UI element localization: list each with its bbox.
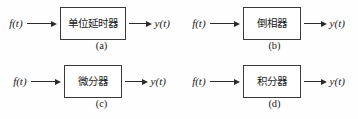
signal-flow-row-a: f(t) 单位延时器 y(t) [0, 6, 179, 41]
processing-block-b: 倒相器 [243, 7, 301, 40]
arrow-shaft [27, 23, 52, 24]
output-arrow-icon-b [304, 20, 327, 27]
caption-b: (b) [179, 41, 358, 52]
block-label-c: 微分器 [78, 76, 108, 87]
arrow-shaft [210, 23, 235, 24]
arrow-shaft [125, 81, 143, 82]
arrow-head [321, 79, 327, 85]
input-signal-label-d: f(t) [192, 76, 205, 87]
signal-flow-row-b: f(t) 倒相器 y(t) [179, 6, 358, 41]
input-arrow-icon-a [27, 20, 57, 27]
block-diagram-c: f(t) 微分器 y(t) (c) [0, 58, 179, 117]
output-arrow-icon-a [129, 20, 152, 27]
input-arrow-icon-c [31, 78, 61, 85]
processing-block-a: 单位延时器 [60, 7, 126, 40]
input-arrow-icon-d [210, 78, 240, 85]
caption-c: (c) [0, 99, 191, 110]
signal-flow-row-c: f(t) 微分器 y(t) [0, 64, 179, 99]
input-signal-label-a: f(t) [9, 18, 22, 29]
caption-a: (a) [0, 41, 191, 52]
input-signal-label-c: f(t) [13, 76, 26, 87]
output-signal-label-c: y(t) [151, 76, 166, 87]
signal-flow-row-d: f(t) 积分器 y(t) [179, 64, 358, 99]
block-label-d: 积分器 [257, 76, 287, 87]
input-arrow-icon-b [210, 20, 240, 27]
caption-d: (d) [179, 99, 358, 110]
input-signal-label-b: f(t) [192, 18, 205, 29]
arrow-head [321, 21, 327, 27]
block-diagram-b: f(t) 倒相器 y(t) (b) [179, 0, 358, 59]
block-diagram-a: f(t) 单位延时器 y(t) (a) [0, 0, 179, 59]
processing-block-c: 微分器 [64, 65, 122, 98]
block-diagram-figure: f(t) 单位延时器 y(t) (a) f(t) 倒相器 [0, 0, 358, 119]
arrow-head [146, 21, 152, 27]
arrow-shaft [304, 81, 322, 82]
output-signal-label-a: y(t) [155, 18, 170, 29]
arrow-shaft [31, 81, 56, 82]
arrow-shaft [210, 81, 235, 82]
arrow-head [51, 21, 57, 27]
output-arrow-icon-d [304, 78, 327, 85]
output-signal-label-d: y(t) [330, 76, 345, 87]
processing-block-d: 积分器 [243, 65, 301, 98]
block-label-a: 单位延时器 [68, 18, 118, 29]
arrow-shaft [304, 23, 322, 24]
arrow-shaft [129, 23, 147, 24]
output-signal-label-b: y(t) [330, 18, 345, 29]
arrow-head [234, 21, 240, 27]
block-diagram-d: f(t) 积分器 y(t) (d) [179, 58, 358, 117]
arrow-head [234, 79, 240, 85]
arrow-head [55, 79, 61, 85]
arrow-head [142, 79, 148, 85]
output-arrow-icon-c [125, 78, 148, 85]
block-label-b: 倒相器 [257, 18, 287, 29]
